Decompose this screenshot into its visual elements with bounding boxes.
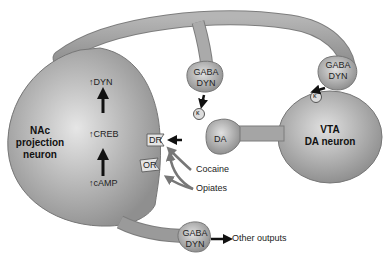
nac-label-line3: neuron: [10, 149, 70, 161]
vta-label: VTA DA neuron: [295, 124, 365, 148]
terminal-top-middle-label: GABA DYN: [191, 67, 221, 89]
vta-label-line1: VTA: [295, 124, 365, 136]
arrow-terminal-to-kappa-da: [202, 95, 204, 104]
dr-label: DR: [149, 136, 162, 145]
drug-arrows: [168, 150, 193, 189]
cascade-dyn-text: DYN: [94, 77, 113, 87]
diagram-canvas: NAc projection neuron ↑DYN ↑CREB ↑cAMP V…: [0, 0, 387, 265]
cocaine-label: Cocaine: [196, 165, 229, 174]
terminal-label-line1: GABA: [191, 67, 221, 78]
terminal-label-line1: GABA: [322, 60, 354, 71]
cascade-creb: ↑CREB: [89, 130, 119, 139]
other-outputs-label: Other outputs: [232, 234, 287, 243]
arrow-terminal-to-kappa-vta: [315, 88, 325, 91]
terminal-top-right-label: GABA DYN: [322, 60, 354, 82]
cascade-camp: ↑cAMP: [89, 179, 118, 188]
da-terminal-label: DA: [214, 135, 227, 144]
terminal-label-line2: DYN: [180, 239, 210, 250]
cascade-camp-text: cAMP: [94, 178, 118, 188]
terminal-bottom-label: GABA DYN: [180, 228, 210, 250]
opiates-label: Opiates: [196, 184, 227, 193]
cascade-dyn: ↑DYN: [89, 78, 113, 87]
or-label: OR: [143, 161, 157, 170]
terminal-label-line1: GABA: [180, 228, 210, 239]
terminal-label-line2: DYN: [322, 71, 354, 82]
vta-label-line2: DA neuron: [295, 136, 365, 148]
cascade-creb-text: CREB: [94, 129, 119, 139]
nac-label-line1: NAc: [10, 125, 70, 137]
nac-label-line2: projection: [10, 137, 70, 149]
kappa-label-vta: κ: [313, 92, 317, 99]
nac-label: NAc projection neuron: [10, 125, 70, 161]
kappa-label-da: κ: [196, 109, 200, 116]
terminal-label-line2: DYN: [191, 78, 221, 89]
